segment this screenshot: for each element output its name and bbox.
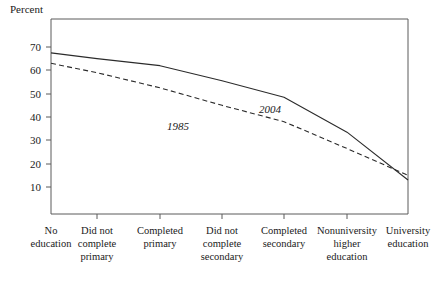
- x-axis-label-3: secondary: [201, 251, 244, 262]
- x-axis-label-1: Did not: [81, 225, 113, 236]
- x-axis-label-4: Completed: [261, 225, 308, 236]
- x-axis-label-3: Did not: [206, 225, 238, 236]
- y-tick-label-20: 20: [30, 158, 42, 170]
- x-axis-label-5: Nonuniversity: [317, 225, 378, 236]
- y-tick-label-70: 70: [30, 41, 42, 53]
- y-tick-label-60: 60: [30, 64, 42, 76]
- series-line-2004: [51, 53, 408, 180]
- x-axis-label-2: Completed: [137, 225, 184, 236]
- x-axis-label-5: higher: [334, 238, 361, 249]
- y-axis-ticks: 70 60 50 40 30 20 10: [30, 41, 51, 193]
- x-axis-label-2: primary: [143, 238, 177, 249]
- x-axis-ticks: [97, 214, 347, 219]
- chart-figure: Percent 70 60 50 40 30 20 10: [0, 0, 444, 283]
- x-axis-label-4: secondary: [263, 238, 306, 249]
- line-chart: Percent 70 60 50 40 30 20 10: [0, 0, 444, 283]
- series-line-1985: [51, 63, 408, 175]
- x-axis-label-1: primary: [80, 251, 114, 262]
- x-axis-labels: NoeducationDid notcompleteprimaryComplet…: [31, 225, 431, 262]
- x-axis-label-0: education: [31, 238, 73, 249]
- x-axis-label-6: education: [388, 238, 430, 249]
- x-axis-label-1: complete: [78, 238, 117, 249]
- y-tick-label-50: 50: [30, 88, 42, 100]
- series-annotation-1985: 1985: [167, 120, 190, 132]
- x-axis-label-0: No: [45, 225, 58, 236]
- x-axis-label-3: complete: [203, 238, 242, 249]
- y-tick-label-30: 30: [30, 134, 42, 146]
- x-axis-label-5: education: [327, 251, 369, 262]
- y-axis-title: Percent: [10, 3, 43, 15]
- x-axis-label-6: University: [386, 225, 431, 236]
- y-tick-label-40: 40: [30, 111, 42, 123]
- plot-frame: [51, 19, 408, 214]
- y-tick-label-10: 10: [30, 181, 42, 193]
- series-annotation-2004: 2004: [259, 103, 282, 115]
